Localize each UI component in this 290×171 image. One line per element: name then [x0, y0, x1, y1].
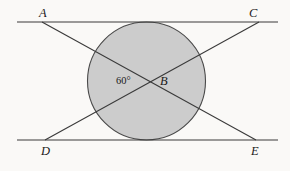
vertex-label-d: D	[41, 145, 50, 158]
vertex-label-e: E	[251, 145, 259, 158]
tangent-circle	[88, 22, 206, 140]
geometry-figure: A C D E B 60°	[0, 0, 290, 171]
vertex-label-c: C	[249, 7, 257, 20]
vertex-label-a: A	[39, 7, 47, 20]
vertex-label-b: B	[160, 75, 168, 88]
angle-measure-label: 60°	[116, 76, 131, 87]
